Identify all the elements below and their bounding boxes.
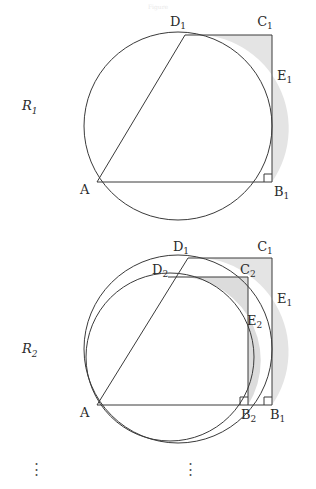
point-label-c1-p2: C1: [257, 239, 273, 256]
point-label-b2: B2: [241, 407, 256, 424]
point-label-e1: E1: [277, 68, 292, 85]
point-label-a: A: [79, 182, 90, 197]
point-label-d1-p2: D1: [173, 239, 189, 256]
point-label-c1: C1: [257, 14, 273, 31]
faint-header-text: Figure: [148, 3, 169, 11]
segment-a-d1-p2: [97, 258, 188, 405]
point-label-e1-p2: E1: [277, 291, 292, 308]
shaded-region-2-inner: [168, 277, 261, 405]
point-label-a-p2: A: [79, 405, 90, 420]
point-label-d1: D1: [170, 14, 186, 31]
point-label-b1-p2: B1: [270, 407, 285, 424]
segment-a-d1: [97, 35, 185, 182]
vertical-ellipsis-left: ⋮: [29, 460, 44, 478]
shaded-region-1: [185, 34, 289, 182]
panel-1: R1 D1 C1 E1 A B1: [21, 14, 292, 220]
region-label-r1: R1: [21, 98, 38, 116]
point-label-b1: B1: [274, 184, 289, 201]
right-angle-marker-b1-p2: [264, 397, 272, 405]
geometry-figure-svg: Figure R1 D1 C1 E1 A B1: [0, 0, 316, 489]
circle-1: [84, 32, 272, 220]
vertical-ellipsis-right: ⋮: [183, 460, 198, 478]
point-label-e2: E2: [247, 313, 262, 330]
diagram-canvas: Figure R1 D1 C1 E1 A B1: [0, 0, 316, 489]
point-label-d2: D2: [152, 262, 168, 279]
panel-2: R2 D1 C1 D2 C2 E1 E2 A B2 B1: [21, 239, 292, 443]
region-label-r2: R2: [21, 341, 38, 359]
right-angle-marker-b1: [264, 174, 272, 182]
